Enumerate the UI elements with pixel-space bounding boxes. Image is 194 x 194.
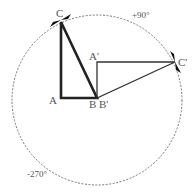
label-b-prime: B' <box>99 98 108 110</box>
label-plus-90: +90° <box>132 10 150 20</box>
rotation-diagram: C A B B' A' C' +90° -270° <box>0 0 194 194</box>
label-c: C <box>56 7 63 19</box>
label-a: A <box>49 94 57 106</box>
label-b: B <box>89 98 96 110</box>
arrowhead-icon <box>170 51 175 62</box>
label-a-prime: A' <box>89 50 99 62</box>
label-minus-270: -270° <box>27 169 47 179</box>
label-c-prime: C' <box>178 56 187 68</box>
rotation-path-circle <box>12 15 182 185</box>
rotated-triangle <box>97 62 175 98</box>
